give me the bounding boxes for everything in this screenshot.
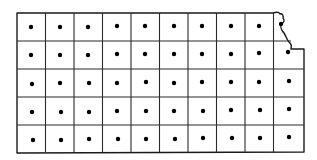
cell-dot bbox=[257, 24, 261, 28]
cell-dot bbox=[286, 50, 290, 54]
cell-dot bbox=[144, 80, 148, 84]
cell-dot bbox=[287, 107, 291, 111]
cell-dot bbox=[116, 137, 120, 141]
cell-dot bbox=[87, 110, 91, 114]
cell-dot bbox=[172, 109, 176, 113]
cell-dot bbox=[257, 51, 261, 55]
kansas-grid-map bbox=[0, 0, 317, 160]
cell-dot bbox=[200, 52, 204, 56]
cell-dot bbox=[58, 81, 62, 85]
cell-dot bbox=[143, 52, 147, 56]
cell-dot bbox=[86, 53, 90, 57]
cell-dot bbox=[172, 24, 176, 28]
cell-dot bbox=[200, 24, 204, 28]
cell-dot bbox=[87, 137, 91, 141]
cell-dot bbox=[257, 80, 261, 84]
cell-dot bbox=[86, 25, 90, 29]
cell-dot bbox=[229, 24, 233, 28]
cell-dot bbox=[172, 81, 176, 85]
cell-dot bbox=[287, 135, 291, 139]
cell-dot bbox=[201, 109, 205, 113]
cell-dot bbox=[144, 109, 148, 113]
cell-dot bbox=[59, 138, 63, 142]
cell-dot bbox=[229, 108, 233, 112]
cell-dot bbox=[258, 136, 262, 140]
cell-dot bbox=[30, 82, 34, 86]
cell-dot bbox=[58, 53, 62, 57]
cell-dot bbox=[229, 52, 233, 56]
cell-dot bbox=[29, 25, 33, 29]
cell-dot bbox=[229, 80, 233, 84]
cell-dot bbox=[279, 22, 283, 26]
cell-dot bbox=[31, 138, 35, 142]
cell-dot bbox=[201, 136, 205, 140]
cell-dot bbox=[230, 136, 234, 140]
cell-dot bbox=[115, 24, 119, 28]
cell-dot bbox=[58, 25, 62, 29]
cell-dot bbox=[29, 53, 33, 57]
cell-dot bbox=[200, 80, 204, 84]
cell-dot bbox=[30, 110, 34, 114]
cell-dot bbox=[172, 52, 176, 56]
cell-dot bbox=[115, 52, 119, 56]
cell-dot bbox=[258, 108, 262, 112]
cell-dot bbox=[173, 137, 177, 141]
cell-dot bbox=[144, 137, 148, 141]
cell-dot bbox=[59, 110, 63, 114]
cell-dot bbox=[115, 81, 119, 85]
cell-dot bbox=[87, 81, 91, 85]
cell-dot bbox=[115, 109, 119, 113]
cell-dot bbox=[287, 79, 291, 83]
cell-dot bbox=[143, 24, 147, 28]
